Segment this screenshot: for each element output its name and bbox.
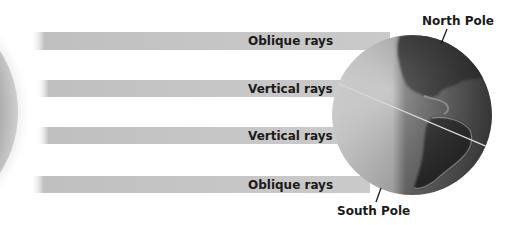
south-pole-label: South Pole — [337, 204, 410, 218]
sun — [0, 12, 22, 212]
ray-label-vertical-lower: Vertical rays — [248, 129, 333, 143]
north-pole-label: North Pole — [422, 14, 494, 28]
ray-label-oblique-bottom: Oblique rays — [248, 178, 333, 192]
ray-label-oblique-top: Oblique rays — [248, 34, 333, 48]
earth-globe — [330, 35, 495, 195]
ray-label-vertical-upper: Vertical rays — [248, 82, 333, 96]
ray-band-1 — [30, 32, 390, 50]
south-pole-tick — [376, 188, 381, 202]
sun-earth-rays-diagram: Oblique rays Vertical rays Vertical rays… — [0, 0, 512, 225]
